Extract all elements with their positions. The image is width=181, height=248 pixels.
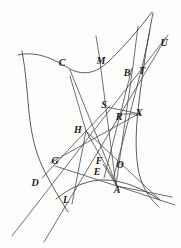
geometric-figure: CMBTUSRXHGFEODLA bbox=[0, 0, 181, 248]
point-label-c: C bbox=[59, 58, 66, 68]
point-label-t: T bbox=[139, 66, 145, 76]
point-label-x: X bbox=[136, 108, 143, 118]
point-label-h: H bbox=[74, 125, 82, 135]
figure-canvas bbox=[0, 0, 181, 248]
point-label-d: D bbox=[31, 178, 38, 188]
point-label-s: S bbox=[101, 100, 107, 110]
curve-left-branch bbox=[22, 51, 68, 212]
point-label-b: B bbox=[124, 68, 131, 78]
construction-lines-group bbox=[12, 26, 175, 242]
point-label-g: G bbox=[51, 156, 58, 166]
point-label-l: L bbox=[63, 195, 69, 205]
point-label-o: O bbox=[116, 160, 123, 170]
line-O-T bbox=[114, 30, 150, 176]
point-label-r: R bbox=[116, 112, 123, 122]
point-label-u: U bbox=[160, 38, 167, 48]
point-label-m: M bbox=[97, 56, 106, 66]
point-label-a: A bbox=[114, 185, 121, 195]
point-label-f: F bbox=[96, 156, 103, 166]
curve-upper-branch bbox=[18, 12, 152, 73]
line-L-U bbox=[44, 38, 166, 242]
line-L-H bbox=[72, 131, 86, 204]
point-label-e: E bbox=[94, 167, 101, 177]
